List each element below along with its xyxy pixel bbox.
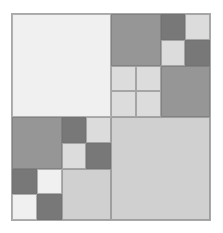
- quad-leaf-tr-tr-bottom-left: [161, 40, 186, 66]
- quad-leaf-tr-tr-top-left: [161, 14, 186, 40]
- quad-node-root: [12, 14, 210, 220]
- quad-leaf-bl-bl-bottom-right: [37, 194, 62, 220]
- quad-leaf-tr-top-left: [111, 14, 161, 66]
- quad-leaf-tr-tr-top-right: [185, 14, 210, 40]
- quad-node-top-right: [111, 14, 210, 117]
- quad-leaf-bl-bl-top-left: [12, 169, 37, 195]
- quad-node-bl-bottom-left: [12, 169, 62, 221]
- quad-leaf-tr-bl-top-left: [111, 66, 136, 92]
- quad-leaf-tr-tr-bottom-right: [185, 40, 210, 66]
- quad-leaf-bl-bl-top-right: [37, 169, 62, 195]
- quad-leaf-bl-top-left: [12, 117, 62, 169]
- quad-node-bl-top-right: [62, 117, 112, 169]
- quad-leaf-bottom-right: [111, 117, 210, 220]
- quad-leaf-bl-bottom-right: [62, 169, 112, 221]
- quad-leaf-top-left: [12, 14, 111, 117]
- quad-leaf-bl-tr-bottom-right: [86, 143, 111, 169]
- quad-leaf-tr-bl-bottom-left: [111, 91, 136, 117]
- quad-leaf-bl-tr-top-right: [86, 117, 111, 143]
- quad-node-tr-top-right: [161, 14, 211, 66]
- quad-leaf-tr-bottom-right: [161, 66, 211, 118]
- screenshot-canvas: [0, 0, 223, 233]
- quad-node-tr-bottom-left: [111, 66, 161, 118]
- quad-leaf-bl-bl-bottom-left: [12, 194, 37, 220]
- quad-node-bottom-left: [12, 117, 111, 220]
- quad-leaf-tr-bl-bottom-right: [136, 91, 161, 117]
- quadtree-figure: [11, 13, 211, 221]
- quad-leaf-bl-tr-bottom-left: [62, 143, 87, 169]
- quad-leaf-tr-bl-top-right: [136, 66, 161, 92]
- quad-leaf-bl-tr-top-left: [62, 117, 87, 143]
